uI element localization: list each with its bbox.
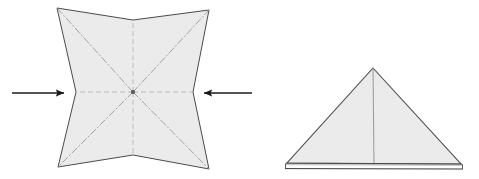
fold-diagram-canvas <box>0 0 479 179</box>
fold-diagram-container: Paper folding collapse diagram A four-po… <box>0 0 479 179</box>
left-figure-group <box>57 8 209 169</box>
collapse-center-dot <box>131 90 135 94</box>
base-layer-fill <box>286 165 462 166</box>
